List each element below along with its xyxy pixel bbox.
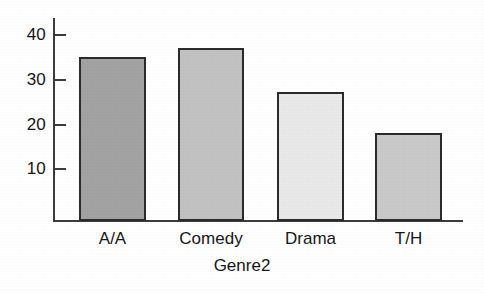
y-axis-tick [55,168,66,170]
bar[interactable] [79,57,146,221]
y-axis-tick-label-text: 30 [10,71,46,88]
bar[interactable] [178,48,244,221]
bar[interactable] [375,133,442,221]
bar[interactable] [277,92,344,221]
bar-chart: 40302010 A/AComedyDramaT/H Genre2 [0,0,484,293]
x-axis-title: Genre2 [0,256,484,276]
y-axis-tick-label: 20 [0,116,46,133]
y-axis-tick-label-text: 20 [10,116,46,133]
y-axis-tick-label-text: 40 [10,26,46,43]
y-axis-tick-label: 40 [0,26,46,43]
x-axis-category-label: T/H [350,229,467,249]
y-axis-tick [55,79,66,81]
y-axis-tick-label-text: 10 [10,160,46,177]
y-axis-tick-label: 30 [0,71,46,88]
y-axis-line [53,18,55,222]
y-axis-tick [55,124,66,126]
y-axis-tick [55,34,66,36]
y-axis-tick-label: 10 [0,160,46,177]
